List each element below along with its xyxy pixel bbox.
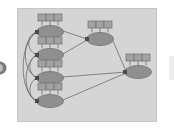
node-n4-port (35, 99, 39, 103)
node-n2-port (35, 53, 39, 57)
node-n5-ellipse (87, 33, 114, 46)
node-n5-boxes (88, 21, 112, 33)
left-edge-circle-marker (0, 62, 7, 75)
node-n1-port (35, 30, 39, 34)
node-n6-ellipse (125, 66, 152, 79)
node-n6-port (123, 70, 127, 74)
node-n4-ellipse (37, 95, 64, 108)
node-n3-port (35, 76, 39, 80)
network-graph-svg (0, 0, 174, 134)
node-n3-ellipse (37, 72, 64, 85)
node-n6-boxes (126, 54, 150, 66)
node-n1-ellipse (37, 26, 64, 39)
right-edge-sliver (169, 56, 174, 80)
node-n5-port (85, 37, 89, 41)
diagram-canvas (0, 0, 174, 134)
node-n2-ellipse (37, 49, 64, 62)
